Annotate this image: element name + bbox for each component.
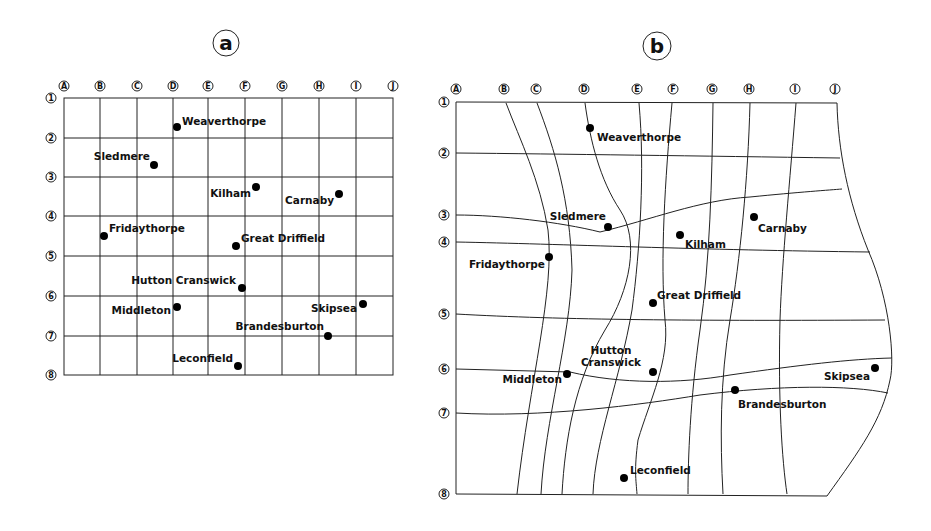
town-marker	[252, 183, 260, 191]
town-skipsea: Skipsea	[311, 300, 367, 314]
svg-text:Leconfield: Leconfield	[172, 352, 233, 364]
town-marker	[173, 123, 181, 131]
row-label-6: 6	[441, 365, 447, 374]
town-marker	[649, 368, 657, 376]
svg-text:Skipsea: Skipsea	[311, 302, 357, 314]
col-label-j: J	[391, 82, 395, 91]
panel-a: a A B C D E F G H I J 1 2 3 4 5 6 7 8	[46, 30, 398, 380]
row-label-5: 5	[441, 310, 447, 319]
town-marker	[871, 364, 879, 372]
svg-text:Middleton: Middleton	[111, 304, 171, 316]
town-fridaythorpe: Fridaythorpe	[469, 253, 553, 270]
col-label-a: A	[61, 82, 68, 91]
row-label-2: 2	[441, 149, 447, 158]
town-hutton-cranswick: Hutton Cranswick	[581, 344, 657, 376]
col-label-e: E	[205, 82, 210, 91]
svg-text:Kilham: Kilham	[685, 238, 726, 250]
svg-text:Fridaythorpe: Fridaythorpe	[469, 258, 545, 270]
town-marker	[238, 284, 246, 292]
svg-text:Sledmere: Sledmere	[94, 150, 150, 162]
town-carnaby: Carnaby	[285, 190, 343, 206]
panel-b-towns: Weaverthorpe Sledmere Kilham Carnaby Fri…	[469, 124, 879, 482]
panel-a-row-labels: 1 2 3 4 5 6 7 8	[46, 93, 56, 380]
town-marker	[232, 242, 240, 250]
col-label-i: I	[794, 85, 797, 94]
town-marker	[150, 161, 158, 169]
col-label-f: F	[670, 85, 675, 94]
town-carnaby: Carnaby	[750, 213, 807, 234]
town-leconfield: Leconfield	[172, 352, 242, 370]
row-label-7: 7	[48, 332, 54, 341]
row-label-8: 8	[48, 371, 54, 380]
row-label-8: 8	[441, 490, 447, 499]
panel-b: b A B C D E F G H I J 1 2 3 4 5 6 7 8	[439, 32, 892, 499]
town-marker	[173, 303, 181, 311]
col-label-b: B	[97, 82, 103, 91]
row-label-4: 4	[441, 238, 447, 247]
row-label-7: 7	[441, 409, 447, 418]
svg-text:Skipsea: Skipsea	[824, 370, 870, 382]
town-kilham: Kilham	[210, 183, 260, 199]
svg-text:Great Driffield: Great Driffield	[241, 232, 325, 244]
svg-text:Great Driffield: Great Driffield	[657, 289, 741, 301]
col-label-g: G	[279, 82, 286, 91]
town-middleton: Middleton	[502, 370, 571, 385]
svg-text:Brandesburton: Brandesburton	[235, 320, 324, 332]
col-label-i: I	[355, 82, 358, 91]
col-label-b: B	[501, 85, 507, 94]
town-sledmere: Sledmere	[94, 150, 158, 169]
col-label-c: C	[134, 82, 140, 91]
town-weaverthorpe: Weaverthorpe	[173, 115, 266, 131]
svg-text:Middleton: Middleton	[502, 373, 562, 385]
col-label-a: A	[453, 85, 460, 94]
town-marker	[649, 299, 657, 307]
svg-text:Cranswick: Cranswick	[581, 356, 642, 368]
town-marker	[731, 386, 739, 394]
town-marker	[620, 474, 628, 482]
svg-text:Sledmere: Sledmere	[550, 210, 606, 222]
town-marker	[100, 232, 108, 240]
row-label-2: 2	[48, 134, 54, 143]
town-marker	[604, 223, 612, 231]
town-great-driffield: Great Driffield	[232, 232, 325, 250]
panel-b-row-labels: 1 2 3 4 5 6 7 8	[439, 97, 449, 499]
town-marker	[359, 300, 367, 308]
town-marker	[750, 213, 758, 221]
col-label-g: G	[709, 85, 716, 94]
row-label-3: 3	[441, 211, 447, 220]
town-middleton: Middleton	[111, 303, 181, 316]
town-marker	[586, 124, 594, 132]
row-label-1: 1	[441, 98, 447, 107]
town-hutton-cranswick: Hutton Cranswick	[131, 274, 246, 292]
svg-text:Fridaythorpe: Fridaythorpe	[109, 222, 185, 234]
col-label-h: H	[746, 85, 753, 94]
town-marker	[335, 190, 343, 198]
col-label-c: C	[533, 85, 539, 94]
row-label-6: 6	[48, 292, 54, 301]
col-label-d: D	[170, 82, 177, 91]
svg-text:Carnaby: Carnaby	[758, 222, 807, 234]
panel-b-title: b	[650, 34, 664, 58]
svg-text:Hutton Cranswick: Hutton Cranswick	[131, 274, 237, 286]
panel-a-column-labels: A B C D E F G H I J	[59, 81, 398, 91]
diagram-canvas: a A B C D E F G H I J 1 2 3 4 5 6 7 8	[0, 0, 931, 531]
town-marker	[676, 231, 684, 239]
panel-a-title: a	[219, 31, 233, 55]
svg-text:Weaverthorpe: Weaverthorpe	[597, 131, 681, 143]
col-label-j: J	[833, 85, 837, 94]
svg-text:Hutton: Hutton	[591, 344, 632, 356]
town-brandesburton: Brandesburton	[731, 386, 827, 410]
panel-a-grid	[64, 98, 393, 375]
row-label-3: 3	[48, 173, 54, 182]
col-label-e: E	[634, 85, 639, 94]
town-brandesburton: Brandesburton	[235, 320, 332, 340]
svg-text:Brandesburton: Brandesburton	[738, 398, 827, 410]
panel-b-column-labels: A B C D E F G H I J	[451, 84, 840, 94]
town-marker	[563, 370, 571, 378]
row-label-4: 4	[48, 212, 54, 221]
town-marker	[545, 253, 553, 261]
row-label-1: 1	[48, 94, 54, 103]
svg-text:Carnaby: Carnaby	[285, 194, 334, 206]
row-label-5: 5	[48, 252, 54, 261]
town-skipsea: Skipsea	[824, 364, 879, 382]
